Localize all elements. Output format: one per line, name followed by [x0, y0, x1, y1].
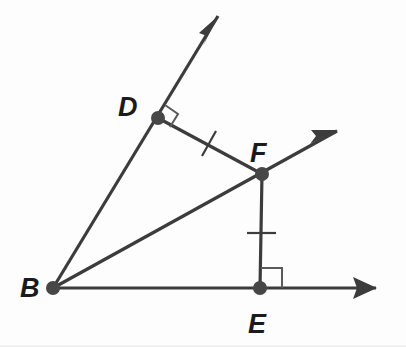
vertex-dot-f [255, 167, 269, 181]
ray-bd-line [53, 16, 218, 288]
geometry-canvas: B D F E [0, 0, 406, 347]
geometry-figure: B D F E [0, 0, 406, 347]
ray-bf-line [53, 131, 337, 288]
segment-df-line [158, 118, 262, 174]
vertex-dot-b [46, 281, 60, 295]
vertex-label-d: D [118, 92, 138, 122]
vertex-label-e: E [248, 309, 267, 339]
vertex-dot-d [151, 111, 165, 125]
arrowhead-ray-bf-icon [310, 130, 338, 144]
vertex-dot-e [253, 281, 267, 295]
vertex-label-b: B [20, 273, 40, 303]
vertex-label-f: F [250, 138, 268, 168]
segment-fe-line [260, 174, 262, 288]
